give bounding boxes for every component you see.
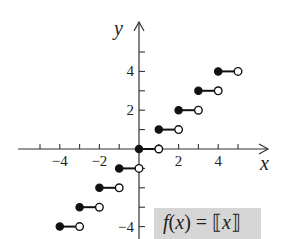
open-dot-icon	[234, 68, 242, 76]
y-tick-label: 2	[127, 102, 135, 118]
step-segment	[195, 87, 222, 95]
step-function-graph: −4−22442−4 x y	[0, 0, 289, 239]
y-tick-label: −4	[118, 219, 134, 235]
x-tick-label: −2	[91, 153, 107, 169]
x-tick-label: 2	[175, 153, 183, 169]
closed-dot-icon	[195, 87, 202, 94]
open-dot-icon	[135, 165, 143, 173]
step-segment	[135, 145, 162, 153]
step-segment	[215, 68, 242, 76]
open-dot-icon	[195, 106, 203, 114]
x-tick-label: 4	[214, 153, 222, 169]
closed-dot-icon	[135, 145, 142, 152]
axes	[18, 22, 268, 239]
step-segment	[76, 203, 103, 211]
closed-dot-icon	[155, 126, 162, 133]
step-segment	[116, 165, 143, 173]
equals-sign: =	[196, 211, 207, 233]
step-segment	[155, 126, 182, 134]
open-dot-icon	[175, 126, 183, 134]
close-paren: )	[184, 211, 191, 233]
y-tick-label: 4	[127, 63, 135, 79]
left-double-bracket: ⟦	[212, 211, 222, 233]
open-dot-icon	[214, 87, 222, 95]
function-label: f(x) = ⟦x⟧	[163, 210, 241, 234]
open-dot-icon	[115, 184, 123, 192]
open-dot-icon	[155, 145, 163, 153]
closed-dot-icon	[215, 68, 222, 75]
step-segment	[96, 184, 123, 192]
open-dot-icon	[76, 223, 84, 231]
step-segment	[56, 223, 83, 231]
bracket-argument: x	[222, 211, 231, 233]
open-dot-icon	[96, 203, 104, 211]
closed-dot-icon	[175, 107, 182, 114]
x-tick-label: −4	[52, 153, 68, 169]
closed-dot-icon	[76, 204, 83, 211]
function-variable: x	[175, 211, 184, 233]
closed-dot-icon	[56, 223, 63, 230]
right-double-bracket: ⟧	[231, 211, 241, 233]
step-segment	[175, 106, 202, 114]
closed-dot-icon	[116, 165, 123, 172]
x-axis-label: x	[259, 152, 269, 174]
closed-dot-icon	[96, 184, 103, 191]
y-axis-label: y	[112, 17, 123, 40]
